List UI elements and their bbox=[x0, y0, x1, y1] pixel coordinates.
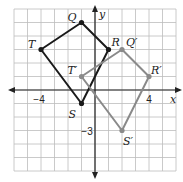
y-axis-label: y bbox=[98, 8, 106, 21]
x-axis-label: x bbox=[170, 93, 177, 106]
tick-label: −3 bbox=[81, 126, 93, 137]
y-axis-down-arrow-icon bbox=[92, 172, 98, 179]
vertex-label: T′ bbox=[68, 64, 78, 77]
axes: xy bbox=[8, 5, 182, 179]
vertex-label: R bbox=[111, 36, 120, 49]
vertex-point bbox=[79, 74, 84, 79]
coordinate-plane-figure: xy −44−3 QRSTQ′R′S′T′ bbox=[0, 0, 183, 182]
vertex-point bbox=[119, 47, 124, 52]
tick-label: 4 bbox=[146, 94, 152, 105]
vertex-label: Q′ bbox=[126, 36, 138, 49]
vertex-point bbox=[79, 101, 84, 106]
vertex-label: T bbox=[28, 38, 37, 51]
x-axis-left-arrow-icon bbox=[8, 87, 15, 93]
y-axis-up-arrow-icon bbox=[92, 5, 98, 12]
vertex-label: R′ bbox=[150, 64, 162, 77]
vertex-point bbox=[38, 47, 43, 52]
vertex-point bbox=[106, 47, 111, 52]
vertex-point bbox=[79, 20, 84, 25]
vertex-label: S′ bbox=[123, 135, 134, 148]
vertex-label: S bbox=[69, 108, 77, 121]
vertex-point bbox=[119, 128, 124, 133]
vertex-label: Q bbox=[68, 11, 77, 24]
tick-label: −4 bbox=[33, 94, 45, 105]
